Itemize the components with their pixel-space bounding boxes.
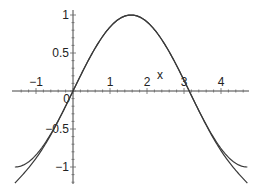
x-tick-label: 1 [107,75,114,89]
y-tick-label: −0.5 [45,122,69,136]
y-tick-label: 0.5 [52,46,69,60]
x-tick-label: 4 [218,75,225,89]
plot-area: −1123410.5−0.5−10 x [0,0,259,195]
y-tick-label: 1 [62,8,69,22]
x-tick-label: 2 [144,75,151,89]
ticks [21,15,243,182]
axes [12,10,249,184]
chart-svg: −1123410.5−0.5−10 x [0,0,259,195]
curves [15,15,247,183]
series-curve-taylor [15,15,247,183]
x-tick-label: −1 [29,75,43,89]
y-tick-label: −1 [55,160,69,174]
x-axis-label: x [157,68,163,82]
